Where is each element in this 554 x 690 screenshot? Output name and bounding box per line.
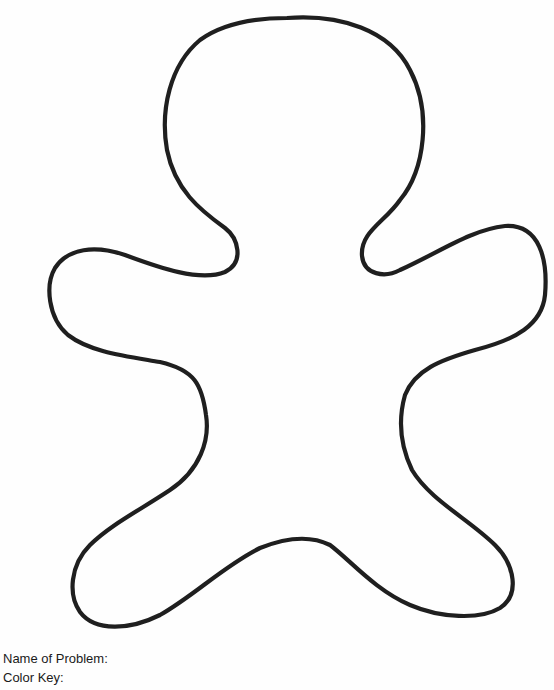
color-key-label: Color Key: bbox=[3, 668, 108, 687]
name-of-problem-label: Name of Problem: bbox=[3, 649, 108, 668]
worksheet-labels: Name of Problem: Color Key: bbox=[3, 649, 108, 687]
worksheet-page: Name of Problem: Color Key: bbox=[0, 0, 554, 690]
gingerbread-outline-icon bbox=[0, 0, 554, 640]
gingerbread-man-figure bbox=[0, 0, 554, 640]
